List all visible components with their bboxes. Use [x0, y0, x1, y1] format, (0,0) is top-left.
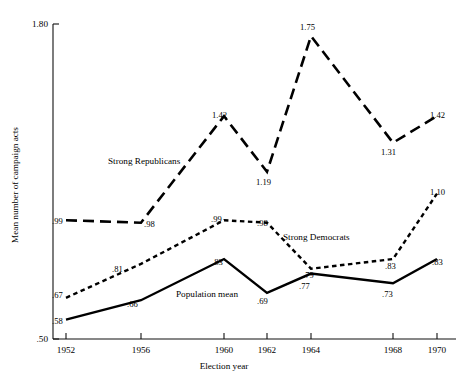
y-axis-tick-label-bottom: .50 — [37, 334, 49, 344]
data-point-label: .58 — [52, 316, 63, 326]
series-annotation-strong-democrats: Strong Democrats — [283, 232, 350, 242]
data-point-label: .69 — [257, 296, 268, 306]
plot-area: 1.80 .50 1952 1956 1960 1962 1964 1968 1… — [0, 0, 463, 376]
data-point-label: .98 — [144, 219, 155, 229]
data-point-label: .99 — [52, 216, 63, 226]
campaign-acts-line-chart: 1.80 .50 1952 1956 1960 1962 1964 1968 1… — [0, 0, 463, 376]
x-axis-tick-label-1968: 1968 — [384, 345, 403, 355]
data-point-label: 1.42 — [430, 110, 445, 120]
x-axis-title: Election year — [200, 361, 249, 371]
data-point-label: .81 — [112, 264, 123, 274]
data-point-label: .79 — [303, 270, 314, 280]
x-axis-tick-label-1952: 1952 — [57, 345, 76, 355]
data-point-label: .66 — [127, 299, 138, 309]
data-point-label: .83 — [212, 257, 223, 267]
data-point-label: .83 — [432, 257, 443, 267]
y-axis-tick-label-top: 1.80 — [32, 19, 48, 29]
x-axis-tick-label-1956: 1956 — [132, 345, 151, 355]
series-annotation-population-mean: Population mean — [176, 289, 238, 299]
data-point-label: 1.31 — [381, 147, 396, 157]
data-point-label: 1.19 — [256, 177, 271, 187]
x-axis-tick-label-1960: 1960 — [215, 345, 234, 355]
data-point-label: .98 — [257, 218, 268, 228]
point-labels-strong-republicans: .99.981.421.191.751.311.42 — [52, 22, 445, 229]
x-axis-tick-label-1962: 1962 — [258, 345, 277, 355]
data-point-label: .73 — [382, 289, 393, 299]
data-point-label: 1.10 — [430, 187, 445, 197]
data-point-label: .99 — [211, 214, 222, 224]
data-point-label: 1.42 — [212, 110, 227, 120]
series-annotation-strong-republicans: Strong Republicans — [108, 156, 181, 166]
data-point-label: .83 — [385, 261, 396, 271]
y-axis-title: Mean number of campaign acts — [10, 127, 20, 243]
x-axis-tick-label-1964: 1964 — [302, 345, 321, 355]
x-axis-tick-label-1970: 1970 — [428, 345, 447, 355]
data-point-label: .77 — [299, 281, 310, 291]
data-point-label: .67 — [52, 290, 63, 300]
data-point-label: 1.75 — [300, 22, 315, 32]
series-line-strong-republicans — [66, 36, 437, 223]
